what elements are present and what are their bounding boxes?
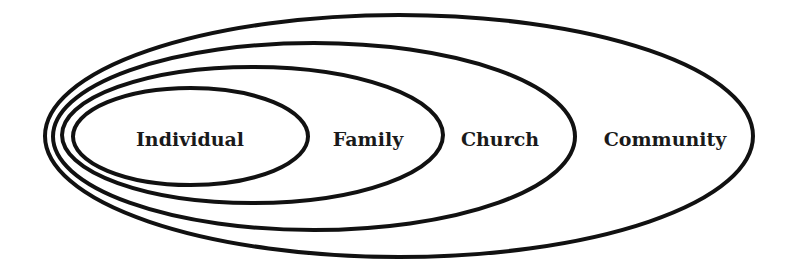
diagram-svg: Community Church Family Individual [0,0,789,279]
label-individual: Individual [136,128,244,150]
label-family: Family [333,128,404,150]
label-church: Church [461,128,539,150]
nested-circles-diagram: Community Church Family Individual [0,0,789,279]
label-community: Community [604,128,728,150]
